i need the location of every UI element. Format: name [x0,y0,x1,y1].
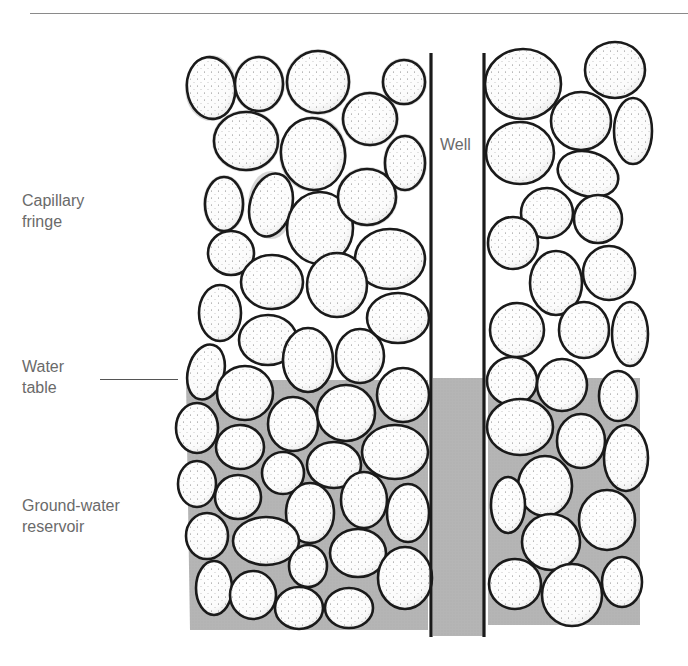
capillary-fringe-label: Capillary fringe [22,190,84,232]
well-label: Well [439,134,472,155]
well-water [433,378,483,636]
water-table-label: Water table [22,356,64,398]
groundwater-diagram [0,0,688,666]
water-table-pointer-line [100,379,178,380]
groundwater-reservoir-label: Ground-water reservoir [22,495,120,537]
well-shaft [433,53,483,378]
